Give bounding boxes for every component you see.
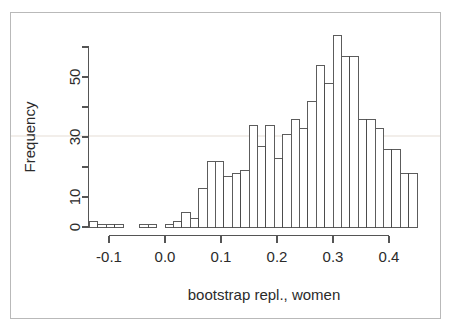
y-axis-tick-label: 50: [66, 69, 83, 86]
histogram-bar: [199, 188, 207, 227]
histogram-bar: [308, 101, 316, 227]
histogram-bar: [333, 35, 341, 227]
y-axis-tick-labels: 0103050: [66, 69, 83, 232]
y-axis-tick-label: 0: [66, 223, 83, 231]
histogram-bar: [190, 218, 198, 227]
histogram-bar: [257, 146, 265, 227]
histogram-bar: [148, 224, 156, 227]
histogram-bar: [316, 65, 324, 227]
histogram-bar: [375, 128, 383, 227]
x-axis-tick-label: 0.3: [323, 248, 344, 265]
histogram-bar: [98, 224, 106, 227]
y-axis-ticks: [82, 47, 89, 227]
histogram-bar: [182, 212, 190, 227]
x-axis-tick-labels: -0.10.00.10.20.30.4: [96, 248, 399, 265]
histogram-bar: [341, 56, 349, 227]
histogram-bar: [367, 119, 375, 227]
histogram-bar: [115, 224, 123, 227]
x-axis-tick-label: 0.2: [267, 248, 288, 265]
histogram-bar: [106, 224, 114, 227]
histogram-bar: [325, 83, 333, 227]
histogram-bar: [409, 173, 417, 227]
x-axis-ticks: [109, 236, 389, 243]
histogram-bar: [89, 221, 97, 227]
x-axis-title: bootstrap repl., women: [188, 286, 341, 303]
histogram-bar: [299, 128, 307, 227]
histogram-bar: [232, 173, 240, 227]
y-axis-tick-label: 30: [66, 129, 83, 146]
histogram-bar: [274, 158, 282, 227]
y-axis-tick-label: 10: [66, 189, 83, 206]
histogram-bar: [241, 170, 249, 227]
histogram-bar: [215, 161, 223, 227]
histogram-figure: 0103050 -0.10.00.10.20.30.4 bootstrap re…: [0, 0, 453, 336]
histogram-bar: [392, 149, 400, 227]
histogram-bar: [291, 119, 299, 227]
histogram-bar: [283, 134, 291, 227]
histogram-bars: [89, 35, 417, 227]
x-axis-tick-label: 0.0: [155, 248, 176, 265]
histogram-bar: [383, 149, 391, 227]
histogram-bar: [249, 125, 257, 227]
histogram-bar: [350, 56, 358, 227]
histogram-bar: [140, 224, 148, 227]
histogram-bar: [224, 176, 232, 227]
y-axis-title: Frequency: [21, 101, 38, 172]
histogram-plot: 0103050 -0.10.00.10.20.30.4 bootstrap re…: [0, 0, 453, 336]
x-axis-tick-label: 0.4: [379, 248, 400, 265]
histogram-bar: [165, 224, 173, 227]
x-axis-tick-label: -0.1: [96, 248, 122, 265]
histogram-bar: [207, 161, 215, 227]
x-axis-tick-label: 0.1: [211, 248, 232, 265]
histogram-bar: [266, 125, 274, 227]
histogram-bar: [358, 119, 366, 227]
histogram-bar: [400, 173, 408, 227]
histogram-bar: [173, 221, 181, 227]
